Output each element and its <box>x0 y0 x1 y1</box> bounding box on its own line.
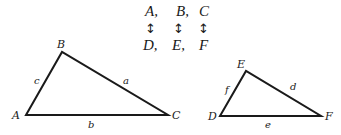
side-label-d: d <box>290 81 296 92</box>
vertex-label-d: D <box>207 110 217 123</box>
corr-bottom-1: D, <box>142 37 158 53</box>
corr-top-3: C <box>199 3 210 19</box>
vertex-label-c: C <box>172 109 181 122</box>
congruent-triangles-diagram: A, B, C ↕ ↕ ↕ D, E, F A B C c a b D E F … <box>0 0 341 135</box>
triangle-def-outline <box>220 71 321 116</box>
side-label-b: b <box>88 119 94 130</box>
double-arrow-icon: ↕ <box>173 21 184 36</box>
vertex-label-b: B <box>56 38 65 51</box>
side-label-f: f <box>224 84 231 95</box>
corr-top-2: B, <box>176 3 189 19</box>
vertex-label-f: F <box>324 110 333 123</box>
double-arrow-icon: ↕ <box>198 21 209 36</box>
triangle-abc-outline <box>26 52 168 115</box>
vertex-correspondence: A, B, C ↕ ↕ ↕ D, E, F <box>142 3 210 53</box>
side-label-e: e <box>265 119 271 130</box>
vertex-label-e: E <box>236 58 245 71</box>
corr-top-1: A, <box>144 3 158 19</box>
vertex-label-a: A <box>11 109 20 122</box>
triangle-def: D E F f d e <box>207 58 333 130</box>
side-label-a: a <box>123 75 129 86</box>
side-label-c: c <box>34 75 40 86</box>
corr-bottom-3: F <box>198 37 209 53</box>
double-arrow-icon: ↕ <box>145 21 156 36</box>
corr-bottom-2: E, <box>171 37 185 53</box>
